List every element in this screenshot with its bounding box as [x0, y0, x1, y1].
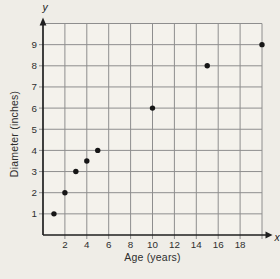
x-tick-label: 16	[213, 239, 224, 250]
y-tick-label: 5	[32, 124, 38, 135]
y-axis-arrow-icon	[40, 18, 47, 26]
data-point	[205, 63, 210, 68]
y-axis-end-label: y	[42, 1, 47, 13]
data-point	[73, 169, 78, 174]
x-tick-label: 6	[106, 239, 112, 250]
data-point	[259, 42, 264, 47]
y-tick-label: 7	[32, 81, 37, 92]
x-axis-end-label: x	[274, 231, 279, 243]
plot-canvas: 24681012141618123456789	[0, 0, 280, 279]
x-axis-arrow-icon	[266, 232, 273, 239]
scatter-plot-figure: 24681012141618123456789 Age (years) Diam…	[0, 0, 280, 279]
x-tick-label: 8	[128, 239, 134, 250]
x-tick-label: 12	[169, 239, 180, 250]
data-point	[84, 158, 89, 163]
data-point	[51, 211, 56, 216]
x-tick-label: 14	[191, 239, 202, 250]
y-tick-label: 6	[32, 103, 38, 114]
y-tick-label: 1	[32, 208, 37, 219]
y-tick-label: 9	[32, 39, 37, 50]
x-axis-title: Age (years)	[43, 251, 262, 264]
y-tick-label: 4	[32, 145, 38, 156]
data-point	[150, 105, 155, 110]
y-tick-label: 3	[32, 166, 38, 177]
x-tick-label: 4	[84, 239, 90, 250]
y-tick-label: 8	[32, 60, 38, 71]
x-tick-label: 18	[235, 239, 246, 250]
y-tick-label: 2	[32, 187, 37, 198]
x-tick-label: 2	[62, 239, 67, 250]
data-point	[95, 148, 100, 153]
data-point	[62, 190, 67, 195]
y-axis-title-text: Diameter (inches)	[8, 91, 20, 177]
x-tick-label: 10	[147, 239, 158, 250]
